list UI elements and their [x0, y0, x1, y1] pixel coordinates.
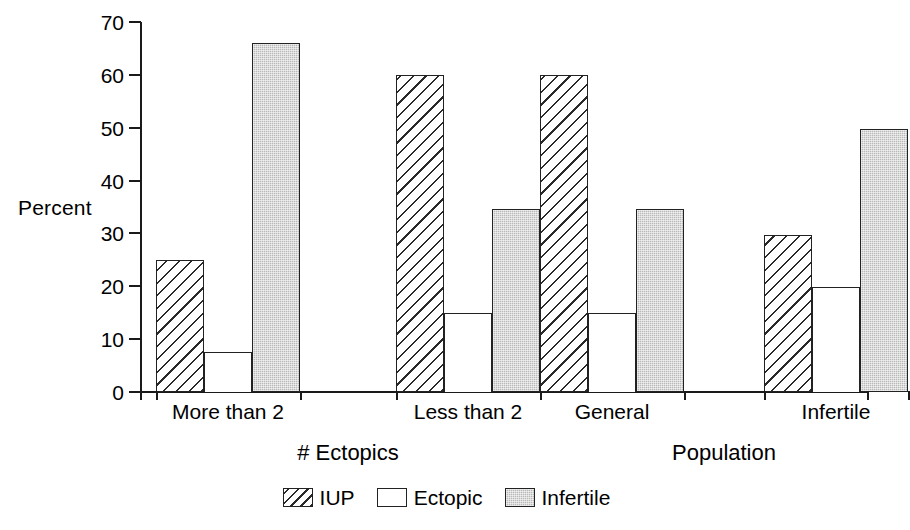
y-axis-tick-label: 40 — [76, 170, 124, 191]
bar-infertile-infertile[interactable] — [860, 129, 908, 392]
bar-infertile-more-than-2[interactable] — [252, 43, 300, 392]
x-axis-tick — [684, 391, 686, 400]
x-axis-tick — [140, 391, 142, 400]
white-swatch-icon — [377, 488, 407, 507]
y-axis-tick-label: 70 — [76, 12, 124, 33]
bar-iup-more-than-2[interactable] — [156, 260, 204, 392]
bar-iup-less-than-2[interactable] — [396, 75, 444, 392]
y-axis-tick-label: 0 — [76, 382, 124, 403]
legend-item-infertile[interactable]: Infertile — [505, 487, 611, 508]
x-axis-group-label: Population — [672, 440, 776, 466]
bar-ectopic-general[interactable] — [588, 313, 636, 392]
bar-ectopic-infertile[interactable] — [812, 287, 860, 392]
bar-ectopic-less-than-2[interactable] — [444, 313, 492, 392]
bar-iup-general[interactable] — [540, 75, 588, 392]
x-axis-tick — [540, 391, 542, 400]
x-axis-tick — [300, 391, 302, 400]
x-axis-tick — [156, 391, 158, 400]
x-axis-tick — [764, 391, 766, 400]
y-axis-tick-label: 30 — [76, 223, 124, 244]
x-axis-category-label: General — [575, 400, 650, 424]
legend-item-ectopic[interactable]: Ectopic — [377, 487, 483, 508]
x-axis-tick — [867, 391, 869, 400]
y-axis-tick-label: 60 — [76, 64, 124, 85]
bar-iup-infertile[interactable] — [764, 235, 812, 393]
bar-ectopic-more-than-2[interactable] — [204, 352, 252, 392]
x-axis-group-label: # Ectopics — [297, 440, 399, 466]
y-axis-title: Percent — [18, 196, 92, 220]
legend-item-iup[interactable]: IUP — [283, 487, 355, 508]
plot-area — [140, 22, 868, 392]
chart-legend: IUPEctopicInfertile — [0, 487, 893, 508]
gray-swatch-icon — [505, 488, 535, 507]
x-axis-category-label: More than 2 — [172, 400, 284, 424]
legend-label: IUP — [320, 487, 355, 508]
x-axis-category-label: Infertile — [802, 400, 871, 424]
y-axis-tick-label: 50 — [76, 117, 124, 138]
bar-infertile-less-than-2[interactable] — [492, 209, 540, 392]
y-axis-tick-label: 20 — [76, 276, 124, 297]
bar-infertile-general[interactable] — [636, 209, 684, 392]
x-axis-tick — [396, 391, 398, 400]
legend-label: Ectopic — [414, 487, 483, 508]
legend-label: Infertile — [542, 487, 611, 508]
hatched-swatch-icon — [283, 488, 313, 507]
x-axis-category-label: Less than 2 — [414, 400, 523, 424]
y-axis-tick-label: 10 — [76, 329, 124, 350]
